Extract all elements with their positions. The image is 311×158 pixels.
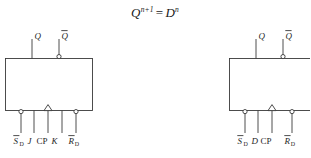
d-body-rect [230,59,311,111]
jk-output-q-label: Q [35,31,42,41]
d-output-q-label: Q [259,31,266,41]
jk-input-cp-label: CP [37,136,48,146]
d-input-cp-label: CP [261,136,272,146]
jk-body-rect [6,59,93,111]
d-input-sd-label: S [238,136,243,146]
jk-flip-flop-symbol: Q Q S D J CP K R D [6,31,93,148]
d-input-sd-sublabel: D [244,141,249,147]
flip-flop-diagram: Q Q S D J CP K R D [0,0,310,158]
d-input-rd-label: R [284,136,291,146]
jk-output-qbar-label: Q [62,31,69,41]
jk-input-rd-label: R [68,136,75,146]
jk-input-k-label: K [51,136,59,146]
jk-output-qbar-bubble-icon [57,55,61,59]
jk-input-sd-bubble-icon [19,110,23,114]
figure-canvas: Qn+1=Dn Q Q S [0,0,310,158]
d-flip-flop-symbol: Q Q S D D CP R D [230,31,311,148]
jk-input-rd-bubble-icon [74,110,78,114]
d-input-d-label: D [251,136,259,146]
d-output-qbar-label: Q [286,31,293,41]
jk-input-sd-label: S [14,136,19,146]
jk-input-rd-sublabel: D [75,141,80,147]
d-input-sd-bubble-icon [243,110,247,114]
d-input-rd-sublabel: D [291,141,296,147]
d-input-rd-bubble-icon [290,110,294,114]
d-output-qbar-bubble-icon [281,55,285,59]
jk-input-j-label: J [28,136,33,146]
jk-input-sd-sublabel: D [20,141,25,147]
